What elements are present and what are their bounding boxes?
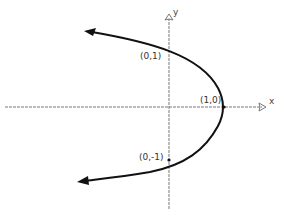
label-point-vertex: (1,0) <box>200 95 221 105</box>
y-axis-label: y <box>173 7 179 17</box>
point-bottom <box>167 158 170 161</box>
x-axis-arrow-icon <box>259 103 266 111</box>
x-axis-label: x <box>269 96 275 106</box>
parabola-graph: x y (0,1) (1,0) (0,-1) <box>0 0 281 209</box>
y-axis-arrow-icon <box>165 14 173 20</box>
label-point-bottom: (0,-1) <box>139 152 164 162</box>
lower-arrowhead-icon <box>77 176 89 185</box>
point-vertex <box>222 105 225 108</box>
upper-arrowhead-icon <box>84 28 96 36</box>
label-point-top: (0,1) <box>140 51 161 61</box>
